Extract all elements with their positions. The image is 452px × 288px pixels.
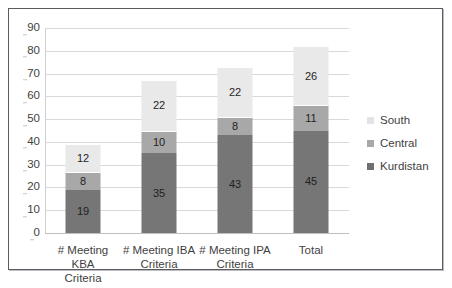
x-axis-label-line: # Meeting IBA	[121, 243, 197, 257]
chart-legend: SouthCentralKurdistan	[367, 109, 441, 178]
bar-segment-kurdistan[interactable]: 19	[66, 190, 101, 233]
bar-value-label: 10	[153, 137, 165, 148]
stacked-bar[interactable]: 43822	[218, 67, 253, 233]
stacked-bar[interactable]: 19812	[66, 144, 101, 233]
y-axis-tick-mark	[23, 216, 27, 217]
y-axis-tick-mark	[23, 193, 27, 194]
bar-value-label: 43	[229, 179, 241, 190]
y-axis-tick-mark	[23, 125, 27, 126]
bar-segment-south[interactable]: 26	[294, 46, 329, 105]
x-axis-label-line: # Meeting IPA	[197, 243, 273, 257]
legend-item-south[interactable]: South	[367, 109, 441, 132]
x-axis-category-labels: # Meeting KBACriteria# Meeting IBACriter…	[45, 237, 349, 277]
bar-segment-kurdistan[interactable]: 43	[218, 135, 253, 233]
chart-frame: 0102030405060708090198123510224382245112…	[8, 8, 443, 270]
bar-segment-kurdistan[interactable]: 45	[294, 131, 329, 234]
bar-group: 451126	[273, 28, 349, 233]
bar-segment-south[interactable]: 22	[218, 67, 253, 117]
bar-value-label: 12	[77, 153, 89, 164]
bar-value-label: 35	[153, 188, 165, 199]
bar-value-label: 45	[305, 176, 317, 187]
bar-value-label: 22	[229, 87, 241, 98]
bar-segment-central[interactable]: 8	[66, 172, 101, 190]
bar-value-label: 19	[77, 206, 89, 217]
x-axis-label-line: # Meeting KBA	[45, 243, 121, 271]
bar-value-label: 26	[305, 71, 317, 82]
legend-label: Central	[380, 138, 417, 150]
y-axis-tick-label: 10	[27, 204, 40, 216]
bar-segment-south[interactable]: 22	[142, 80, 177, 130]
plot-area: 0102030405060708090198123510224382245112…	[45, 28, 349, 233]
y-axis-tick-mark	[23, 102, 27, 103]
x-axis-label: Total	[273, 243, 349, 257]
bar-segment-kurdistan[interactable]: 35	[142, 153, 177, 233]
x-axis-label-line: Criteria	[121, 257, 197, 271]
y-axis-tick-mark	[30, 239, 34, 240]
bar-segment-central[interactable]: 10	[142, 131, 177, 154]
legend-swatch-icon	[367, 117, 374, 124]
stacked-bar[interactable]: 451126	[294, 46, 329, 233]
bar-value-label: 11	[305, 113, 316, 124]
x-axis-label-line: Criteria	[45, 271, 121, 285]
bar-value-label: 22	[153, 100, 165, 111]
y-axis-tick-label: 0	[34, 227, 40, 239]
bar-value-label: 8	[232, 121, 238, 132]
x-axis-label: # Meeting KBACriteria	[45, 243, 121, 285]
y-axis-tick-label: 30	[27, 159, 40, 171]
bar-group: 351022	[121, 28, 197, 233]
legend-label: South	[380, 115, 410, 127]
bar-group: 43822	[197, 28, 273, 233]
y-axis-tick-label: 20	[27, 182, 40, 194]
bar-segment-central[interactable]: 11	[294, 105, 329, 130]
y-axis-tick-label: 40	[27, 136, 40, 148]
y-axis-tick-label: 50	[27, 113, 40, 125]
y-axis-tick-label: 60	[27, 91, 40, 103]
legend-label: Kurdistan	[380, 161, 429, 173]
y-axis-tick-mark	[23, 57, 27, 58]
legend-item-kurdistan[interactable]: Kurdistan	[367, 155, 441, 178]
x-axis-label-line: Total	[273, 243, 349, 257]
y-axis-tick-mark	[23, 34, 27, 35]
legend-swatch-icon	[367, 140, 374, 147]
x-axis-label: # Meeting IPACriteria	[197, 243, 273, 271]
y-axis-tick-mark	[23, 79, 27, 80]
bar-group: 19812	[45, 28, 121, 233]
y-axis-tick-label: 70	[27, 68, 40, 80]
bar-segment-central[interactable]: 8	[218, 117, 253, 135]
y-axis-tick-mark	[23, 170, 27, 171]
stacked-bar[interactable]: 351022	[142, 80, 177, 233]
y-axis-tick-mark	[23, 148, 27, 149]
axis-baseline	[45, 233, 349, 234]
bar-segment-south[interactable]: 12	[66, 144, 101, 171]
bar-value-label: 8	[80, 176, 86, 187]
y-axis-tick-label: 90	[27, 22, 40, 34]
legend-swatch-icon	[367, 163, 374, 170]
y-axis-tick-label: 80	[27, 45, 40, 57]
x-axis-label: # Meeting IBACriteria	[121, 243, 197, 271]
x-axis-label-line: Criteria	[197, 257, 273, 271]
legend-item-central[interactable]: Central	[367, 132, 441, 155]
